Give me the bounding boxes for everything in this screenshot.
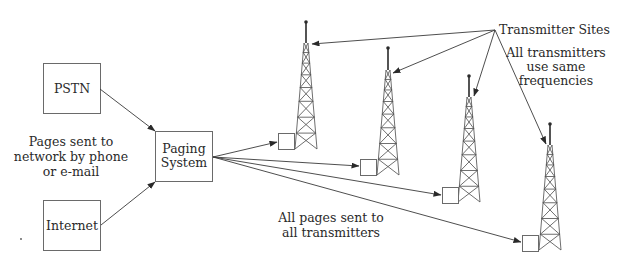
transmitter-equipment-box [443,188,459,204]
output-note-line1: All pages sent to [277,210,384,225]
arrow-to-tower-1 [213,142,277,157]
tower-brace [546,165,554,177]
tower-brace [543,189,556,203]
tower-brace [382,102,392,115]
tower-brace [300,75,310,88]
tower-brace [299,88,312,102]
tower-brace [458,186,479,202]
arrow-to-tower-2 [213,157,359,166]
tower-brace [302,63,310,75]
antenna-tip-icon [467,74,471,78]
tower-brace [461,171,479,187]
tower-brace [300,88,313,102]
tower-brace [295,133,316,149]
tower-brace [545,165,553,177]
tower-brace [464,117,472,129]
tower-brace [301,75,311,88]
input-note: Pages sent to network by phone or e-mail [14,134,128,179]
frequency-note-line3: frequencies [519,73,593,88]
tower-brace [381,114,394,128]
tower-brace [382,114,395,128]
antenna-tip-icon [548,122,552,126]
tower-brace [381,128,396,144]
tower-brace [542,219,560,235]
tower-brace [377,159,398,175]
transmitter-tower-2 [361,46,400,175]
tower-brace [380,144,398,160]
frequency-note: All transmitters use same frequencies [505,45,606,88]
tower-brace [463,141,476,155]
tower-brace [544,177,554,190]
frequency-note-line1: All transmitters [505,45,606,60]
arrow-to-tower-3 [213,157,441,195]
tower-brace [462,155,477,171]
input-note-line2: network by phone [14,149,128,164]
tower-brace [464,129,474,142]
arrow-pstn-to-paging [100,89,155,131]
tower-brace [540,219,558,235]
tower-brace [296,133,317,149]
transmitter-tower-4 [523,122,562,251]
tower-brace [380,128,395,144]
paging-system-label-line1: Paging [162,141,205,156]
input-note-line3: or e-mail [43,164,99,179]
tower-brace [459,186,480,202]
transmitter-equipment-box [523,236,539,252]
tower-brace [461,155,476,171]
transmitter-equipment-box [279,134,295,150]
tower-brace [378,144,396,160]
tower-brace [299,101,314,117]
antenna-tip-icon [386,46,390,50]
internet-node: Internet [44,201,101,251]
paging-system-node: Paging System [156,132,213,182]
tower-brace [540,234,561,250]
transmitter-equipment-box [361,160,377,176]
tower-brace [539,234,560,250]
antenna-tip-icon [304,20,308,24]
pstn-node: PSTN [44,64,101,114]
tower-brace [545,177,555,190]
output-note-line2: all transmitters [282,225,380,240]
tower-brace [463,129,473,142]
tower-brace [301,63,309,75]
transmitter-sites-label: Transmitter Sites [499,22,610,37]
pstn-label: PSTN [54,81,90,96]
tower-brace [459,171,477,187]
internet-label: Internet [46,218,98,233]
site-arrow-3 [474,30,495,96]
stray-dot [20,238,22,240]
tower-brace [383,102,393,115]
paging-system-label-line2: System [161,155,207,170]
output-note: All pages sent to all transmitters [277,210,384,240]
paging-network-diagram: PSTN Internet Paging System Pages sent t… [0,0,617,265]
input-note-line1: Pages sent to [29,134,114,149]
tower-brace [544,189,557,203]
tower-brace [384,90,392,102]
arrow-internet-to-paging [101,182,155,225]
tower-brace [298,117,316,133]
frequency-note-line2: use same [527,59,586,74]
tower-brace [542,203,557,219]
tower-brace [383,90,391,102]
tower-brace [465,117,473,129]
transmitter-tower-1 [279,20,318,149]
tower-brace [543,203,558,219]
tower-brace [298,101,313,117]
tower-brace [378,159,399,175]
tower-brace [462,141,475,155]
tower-brace [296,117,314,133]
